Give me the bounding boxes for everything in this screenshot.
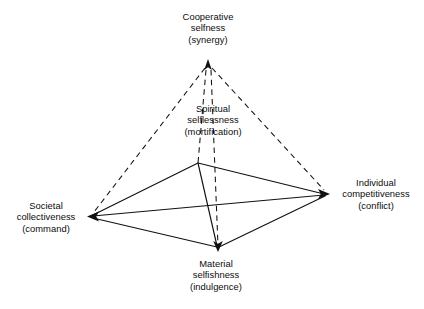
solid-edge-group xyxy=(93,163,325,247)
edge-left-to-bottom xyxy=(93,218,217,247)
edge-apex-to-bottom xyxy=(211,70,218,246)
label-cooperative-selfness: Cooperative selfness (synergy) xyxy=(183,11,234,45)
arrowhead-up-apex xyxy=(204,59,212,70)
label-line-3: (mortification) xyxy=(184,126,241,137)
label-spiritual-selflessness: Spiritual selflessness (mortification) xyxy=(184,103,241,137)
label-line-1: Cooperative xyxy=(183,11,234,22)
label-line-1: Spiritual xyxy=(184,103,241,114)
label-line-3: (indulgence) xyxy=(190,281,242,292)
diagram-canvas: Cooperative selfness (synergy) Spiritual… xyxy=(0,0,424,309)
edge-back-to-right xyxy=(198,163,324,194)
label-line-3: (conflict) xyxy=(342,200,410,211)
label-line-2: selflessness xyxy=(184,114,241,125)
label-line-3: (command) xyxy=(17,223,76,234)
edge-apex-to-left xyxy=(94,68,205,212)
dashed-edge-group xyxy=(94,68,324,246)
label-material-selfishness: Material selfishness (indulgence) xyxy=(190,258,242,292)
label-societal-collectiveness: Societal collectiveness (command) xyxy=(17,200,76,234)
label-individual-competitiveness: Individual competitiveness (conflict) xyxy=(342,177,410,211)
arrowhead-right-individual xyxy=(318,189,330,199)
label-line-2: selfishness xyxy=(190,269,242,280)
arrowhead-group xyxy=(87,59,330,252)
edge-left-to-back xyxy=(93,163,198,215)
label-line-1: Material xyxy=(190,258,242,269)
label-line-2: selfness xyxy=(183,22,234,33)
label-line-1: Individual xyxy=(342,177,410,188)
label-line-2: competitiveness xyxy=(342,188,410,199)
label-line-2: collectiveness xyxy=(17,211,76,222)
label-line-3: (synergy) xyxy=(183,34,234,45)
arrowhead-left-societal xyxy=(87,212,99,222)
label-line-1: Societal xyxy=(17,200,76,211)
